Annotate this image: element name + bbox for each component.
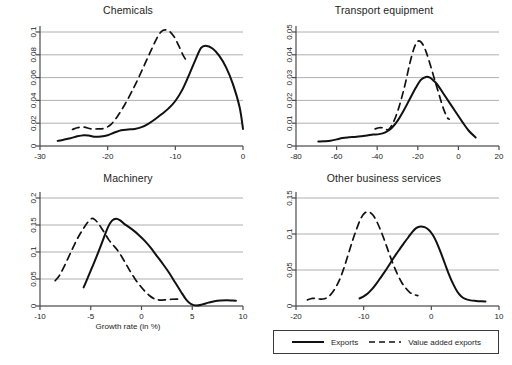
svg-text:0.15: 0.15 — [29, 217, 38, 233]
svg-text:0.05: 0.05 — [29, 271, 38, 287]
x-axis-label-growth-rate: Growth rate (in %) — [0, 322, 256, 331]
svg-text:-20: -20 — [290, 312, 302, 321]
svg-text:-10: -10 — [358, 312, 370, 321]
svg-text:0: 0 — [29, 143, 38, 148]
svg-text:0.1: 0.1 — [29, 26, 38, 38]
legend-swatch-dashed-icon — [368, 338, 402, 346]
svg-text:-10: -10 — [34, 312, 46, 321]
svg-text:-20: -20 — [102, 152, 114, 161]
series-legend: Exports Value added exports — [273, 330, 499, 354]
svg-text:0.05: 0.05 — [285, 24, 294, 40]
svg-text:0: 0 — [29, 303, 38, 308]
svg-text:20: 20 — [495, 152, 504, 161]
svg-text:0.1: 0.1 — [29, 246, 38, 258]
legend-entry-value-added-exports: Value added exports — [368, 338, 481, 347]
svg-text:0.1: 0.1 — [285, 228, 294, 240]
svg-text:-5: -5 — [87, 312, 95, 321]
svg-text:0: 0 — [285, 143, 294, 148]
panel-other-business-services: Other business services 00.050.10.15-20-… — [256, 172, 512, 348]
svg-text:0.02: 0.02 — [285, 92, 294, 108]
svg-text:10: 10 — [495, 312, 504, 321]
figure-canvas: Chemicals 00.020.040.060.080.1-30-20-100… — [0, 0, 512, 365]
legend-swatch-solid-icon — [291, 338, 325, 346]
svg-text:0: 0 — [241, 152, 246, 161]
svg-text:0.15: 0.15 — [285, 190, 294, 206]
svg-text:0.01: 0.01 — [285, 115, 294, 131]
svg-text:-10: -10 — [170, 152, 182, 161]
svg-text:0.04: 0.04 — [285, 46, 294, 62]
plot-area-other-business-services: 00.050.10.15-20-10010 — [256, 172, 512, 348]
svg-text:0.2: 0.2 — [29, 192, 38, 204]
legend-label-exports: Exports — [331, 338, 358, 347]
svg-text:-60: -60 — [331, 152, 343, 161]
svg-text:0: 0 — [285, 303, 294, 308]
plot-area-chemicals: 00.020.040.060.080.1-30-20-100 — [0, 4, 256, 172]
svg-text:0.04: 0.04 — [29, 92, 38, 108]
legend-entry-exports: Exports — [291, 338, 358, 347]
svg-text:0: 0 — [429, 312, 434, 321]
panel-transport-equipment: Transport equipment 00.010.020.030.040.0… — [256, 4, 512, 172]
svg-text:10: 10 — [239, 312, 248, 321]
legend-label-value-added-exports: Value added exports — [408, 338, 481, 347]
svg-text:0.06: 0.06 — [29, 69, 38, 85]
svg-text:0.03: 0.03 — [285, 69, 294, 85]
svg-text:0.05: 0.05 — [285, 262, 294, 278]
svg-text:0: 0 — [456, 152, 461, 161]
svg-text:5: 5 — [190, 312, 195, 321]
panel-chemicals: Chemicals 00.020.040.060.080.1-30-20-100 — [0, 4, 256, 172]
svg-text:-80: -80 — [290, 152, 302, 161]
svg-text:0: 0 — [139, 312, 144, 321]
svg-text:-20: -20 — [412, 152, 424, 161]
svg-text:0.08: 0.08 — [29, 46, 38, 62]
plot-area-transport-equipment: 00.010.020.030.040.05-80-60-40-20020 — [256, 4, 512, 172]
panel-machinery: Machinery 00.050.10.150.2-10-50510 Growt… — [0, 172, 256, 348]
svg-text:-40: -40 — [371, 152, 383, 161]
svg-text:0.02: 0.02 — [29, 115, 38, 131]
svg-text:-30: -30 — [34, 152, 46, 161]
